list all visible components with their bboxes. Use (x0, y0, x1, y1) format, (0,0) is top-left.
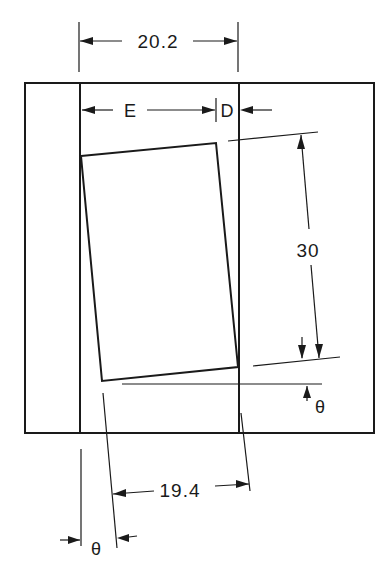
dimension-line-upper (301, 135, 309, 229)
arrow-down-icon (315, 344, 323, 358)
tilted-block-diagram: 20.2 E D 30 θ 1 (0, 0, 389, 580)
channel-frame (25, 83, 374, 433)
theta-arrow-shaft-right (129, 536, 137, 537)
arrow-right-icon (68, 536, 80, 544)
arrow-up-icon (303, 386, 311, 398)
arrow-left-icon (82, 106, 95, 114)
dimension-block-width: 19.4 (81, 393, 250, 548)
arrow-left-icon (240, 106, 253, 114)
label-theta-right: θ (315, 397, 325, 417)
arrow-right-icon (224, 37, 237, 45)
label-e: E (124, 101, 136, 121)
tilted-block (81, 143, 238, 381)
label-block-height: 30 (296, 240, 319, 261)
extension-line-top (228, 132, 318, 141)
angle-theta-bottom: θ (60, 534, 137, 559)
dimension-top-width: 20.2 (79, 22, 238, 72)
dimension-block-height: 30 (228, 132, 340, 366)
dimension-d: D (221, 101, 273, 121)
arrow-down-icon (298, 345, 306, 359)
label-top-width: 20.2 (138, 31, 179, 52)
arrow-right-icon (236, 480, 249, 488)
extension-line-slanted-right (241, 413, 250, 491)
arrow-left-icon (117, 534, 129, 542)
dimension-e: E (82, 98, 216, 122)
extension-line-slanted-left (103, 393, 117, 548)
label-theta-bottom: θ (91, 539, 101, 559)
outer-box (25, 83, 374, 433)
arrow-right-icon (202, 106, 215, 114)
arrow-up-icon (297, 135, 305, 149)
label-block-width: 19.4 (160, 480, 201, 501)
label-d: D (221, 101, 234, 121)
extension-line-bottom (253, 357, 340, 366)
arrow-left-icon (113, 489, 126, 497)
angle-theta-right: θ (122, 384, 325, 417)
arrow-left-icon (80, 37, 93, 45)
